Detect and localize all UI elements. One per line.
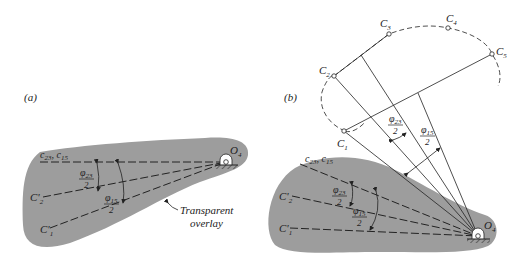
point-c3 [387,32,391,36]
point-c4 [446,26,450,30]
label-c1: C1 [337,137,348,152]
coupler-curve [321,26,500,131]
chord-c1-c5 [344,54,492,131]
callout-arrow [168,203,178,210]
svg-text:2: 2 [109,205,114,215]
linkage-synthesis-diagram: (a) c23, c15 C'2 C'1 φ23 2 φ15 2 [0,0,523,258]
transparent-overlay-b [268,157,496,252]
svg-text:2: 2 [425,137,430,147]
svg-text:2: 2 [337,197,342,207]
chord-c2-c3 [334,34,389,76]
callout-text-line2: overlay [190,217,223,229]
panel-b: (b) [268,12,507,253]
panel-a-label: (a) [24,91,37,104]
svg-text:2: 2 [84,180,89,190]
label-c3: C3 [380,17,391,32]
panel-a: (a) c23, c15 C'2 C'1 φ23 2 φ15 2 [23,91,248,247]
label-c4: C4 [446,12,457,27]
point-c2 [332,74,336,78]
point-c5 [490,52,494,56]
label-c5: C5 [496,45,507,60]
panel-b-label: (b) [284,91,297,104]
svg-text:2: 2 [357,218,362,228]
point-c1 [342,129,346,133]
svg-text:2: 2 [393,126,398,136]
callout-text-line1: Transparent [180,204,234,216]
label-c2: C2 [319,64,330,79]
